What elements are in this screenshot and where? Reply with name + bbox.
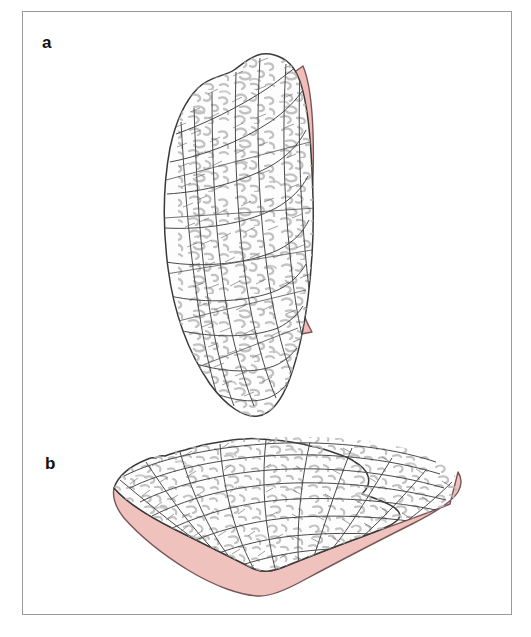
panel-label-b: b	[45, 455, 55, 472]
specimen-b-illustration	[96, 432, 476, 597]
specimen-b-texture	[106, 432, 466, 582]
figure-root: a b	[0, 0, 531, 637]
specimen-b-svg	[96, 432, 476, 597]
specimen-a-illustration	[140, 22, 345, 422]
specimen-a-svg	[140, 22, 345, 422]
panel-label-a: a	[42, 34, 51, 51]
